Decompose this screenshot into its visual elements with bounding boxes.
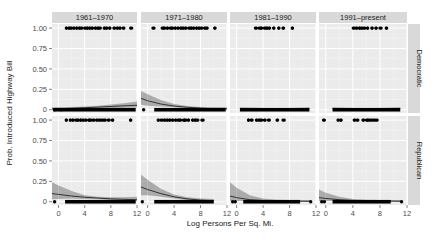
panel-republican-2: [141, 116, 227, 205]
y-tick-label: 0.50: [32, 157, 47, 166]
y-tick-label: 1.00: [32, 116, 47, 125]
y-axis: 00.250.500.751.0000.250.500.751.00: [32, 24, 52, 207]
x-tick-label: 4: [83, 209, 87, 218]
x-tick-label: 12: [133, 209, 141, 218]
x-tick-label: 0: [146, 209, 150, 218]
strip-label: 1991–present: [340, 13, 387, 22]
points-y0: [240, 108, 309, 112]
y-tick-label: 1.00: [32, 24, 47, 33]
faceted-chart: 1961–19701971–19801981–19901991–presentD…: [0, 0, 436, 241]
x-tick-label: 12: [403, 209, 411, 218]
points-y0: [243, 200, 300, 204]
points-y0: [53, 108, 135, 112]
x-tick-label: 0: [235, 209, 239, 218]
points-y0: [154, 200, 214, 204]
y-tick-label: 0.25: [32, 177, 47, 186]
panel-republican-1: [52, 116, 137, 205]
x-tick-label: 8: [287, 209, 291, 218]
strip-col-4: 1991–present: [319, 12, 407, 23]
panel-democratic-3: [230, 24, 316, 113]
panels-layer: [52, 24, 407, 205]
strip-label: 1971–1980: [165, 13, 203, 22]
points-y0: [333, 200, 391, 204]
strip-label: 1981–1990: [254, 13, 292, 22]
y-tick-label: 0.25: [32, 85, 47, 94]
x-tick-label: 8: [109, 209, 113, 218]
y-tick-label: 0.75: [32, 136, 47, 145]
strip-col-3: 1981–1990: [230, 12, 316, 23]
y-axis-title: Prob. Introduced Highway Bill: [5, 60, 14, 165]
points-y0: [65, 200, 136, 204]
strip-label: 1961–1970: [76, 13, 114, 22]
y-tick-label: 0.75: [32, 44, 47, 53]
y-tick-label: 0: [43, 197, 47, 206]
x-tick-label: 12: [312, 209, 320, 218]
x-tick-label: 0: [324, 209, 328, 218]
strip-col-1: 1961–1970: [52, 12, 137, 23]
x-tick-label: 0: [56, 209, 60, 218]
strip-row-republican: Republican: [408, 116, 424, 205]
points-y0: [333, 108, 401, 112]
x-tick-label: 4: [261, 209, 265, 218]
strip-col-2: 1971–1980: [141, 12, 227, 23]
x-tick-label: 12: [223, 209, 231, 218]
strip-row-democratic: Democratic: [408, 24, 424, 113]
points-y0: [154, 108, 225, 112]
strip-label: Democratic: [415, 50, 424, 88]
panel-democratic-2: [141, 24, 227, 113]
strip-label: Republican: [415, 142, 424, 180]
x-axis: 04812048120481204812: [56, 205, 411, 218]
x-axis-title: Log Persons Per Sq. Mi.: [187, 219, 274, 228]
y-tick-label: 0.50: [32, 65, 47, 74]
panel-republican-4: [319, 116, 407, 205]
x-tick-label: 8: [198, 209, 202, 218]
panel-republican-3: [230, 116, 316, 205]
x-tick-label: 4: [172, 209, 176, 218]
y-tick-label: 0: [43, 105, 47, 114]
panel-democratic-4: [319, 24, 407, 113]
panel-democratic-1: [52, 24, 137, 113]
x-tick-label: 4: [351, 209, 355, 218]
x-tick-label: 8: [378, 209, 382, 218]
